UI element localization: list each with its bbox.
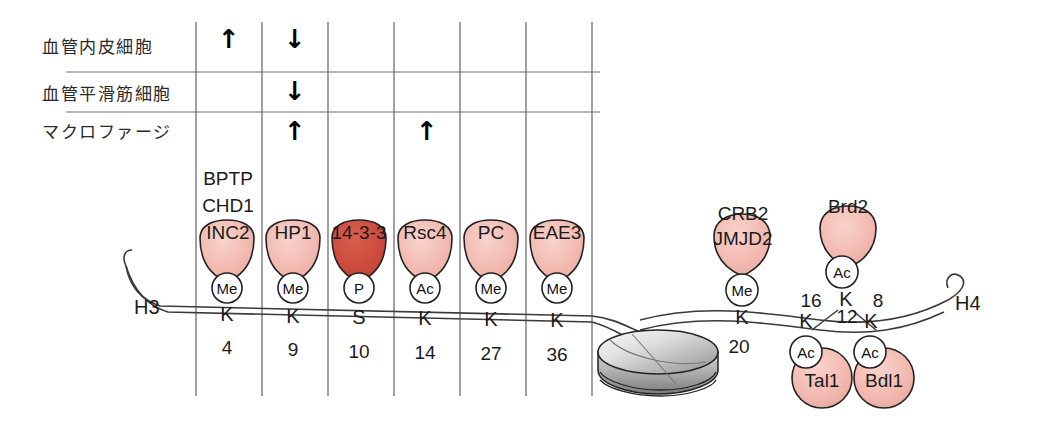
reader-label-jmjd2: JMJD2 — [708, 228, 778, 250]
residue-number-h3k27: 27 — [474, 343, 508, 365]
badge-h3k9: Me — [276, 280, 310, 297]
arrow-smooth-muscle-k9: ↓ — [283, 78, 307, 104]
residue-letter-h3s10: S — [345, 306, 373, 329]
arrow-endothelial-k9: ↓ — [283, 26, 307, 52]
h3-tail-label: H3 — [134, 296, 160, 319]
row-label-endothelial: 血管内皮細胞 — [42, 33, 153, 58]
residue-letter-h4k12: K — [792, 310, 820, 333]
badge-h4k16: Ac — [825, 264, 859, 281]
row-label-smooth-muscle: 血管平滑筋細胞 — [42, 80, 172, 105]
badge-h4k8: Ac — [853, 344, 887, 361]
residue-number-h4k20: 20 — [722, 336, 756, 358]
residue-number-h4k8: 8 — [861, 290, 895, 312]
reader-label-brd2: Brd2 — [818, 196, 878, 218]
reader-label-pc: PC — [463, 222, 519, 244]
residue-letter-h3k9: K — [279, 305, 307, 328]
residue-number-h3k9: 9 — [276, 339, 310, 361]
reader-label-hp1: HP1 — [265, 222, 321, 244]
reader-label-rsc4: Rsc4 — [397, 222, 453, 244]
residue-number-h3k36: 36 — [540, 344, 574, 366]
badge-h3k27: Me — [474, 280, 508, 297]
nucleosome-icon — [598, 330, 718, 396]
row-label-macrophage: マクロファージ — [42, 118, 172, 143]
reader-label-chd1: CHD1 — [200, 195, 256, 217]
reader-label-crb2: CRB2 — [712, 203, 774, 225]
reader-label-bptp: BPTP — [200, 168, 256, 190]
badge-h4k12: Ac — [789, 344, 823, 361]
residue-letter-h4k20: K — [728, 306, 756, 329]
reader-label-tal1: Tal1 — [792, 370, 852, 392]
arrow-endothelial-k4: ↑ — [217, 26, 241, 52]
badge-h3s10: P — [342, 280, 376, 297]
residue-letter-h3k27: K — [477, 308, 505, 331]
residue-letter-h3k4: K — [213, 303, 241, 326]
residue-number-h3k14: 14 — [408, 342, 442, 364]
residue-letter-h4k8: K — [857, 310, 885, 333]
badge-h4k20: Me — [725, 282, 759, 299]
h3-modification-badges — [212, 273, 572, 303]
residue-number-h4k16: 16 — [794, 290, 828, 312]
diagram-canvas: 血管内皮細胞 血管平滑筋細胞 マクロファージ ↑ ↓ ↓ ↑ ↑ BPTP CH… — [0, 0, 1044, 440]
h4-tail-label: H4 — [955, 292, 981, 315]
badge-h3k4: Me — [210, 280, 244, 297]
residue-number-h3s10: 10 — [342, 341, 376, 363]
residue-number-h3k4: 4 — [210, 337, 244, 359]
arrow-macrophage-k9: ↑ — [283, 118, 307, 144]
reader-label-inc2: INC2 — [200, 222, 256, 244]
residue-letter-h3k36: K — [543, 309, 571, 332]
reader-label-bdl1: Bdl1 — [854, 370, 914, 392]
arrow-macrophage-k14: ↑ — [415, 118, 439, 144]
reader-label-eae3: EAE3 — [527, 222, 587, 244]
reader-label-1433: 14-3-3 — [327, 222, 391, 244]
badge-h3k36: Me — [540, 280, 574, 297]
badge-h3k14: Ac — [408, 280, 442, 297]
residue-letter-h3k14: K — [411, 307, 439, 330]
